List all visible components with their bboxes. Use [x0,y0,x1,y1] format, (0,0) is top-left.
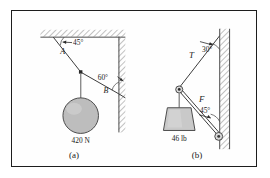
weight-label-b: 46 lb [172,134,187,143]
diagram-b: 30° 45° T F [136,11,258,166]
pin-joint-node [176,86,183,93]
panel-a: 45° 60° A B 420 N [12,11,136,166]
angle-label-45-b: 45° [200,106,210,115]
wall-support [118,37,125,133]
caption-a: (a) [12,150,136,160]
force-label-t: T [189,50,195,60]
pin-joint-wall [215,132,223,140]
point-label-a: A [59,47,65,56]
force-label-f: F [198,94,205,104]
cable-assembly-a [53,37,125,98]
weight-label-a: 420 N [72,136,91,145]
ceiling-support [40,30,125,37]
cable-t [178,36,219,89]
angle-label-45-a: 45° [73,38,83,47]
point-label-b: B [104,86,109,95]
caption-b: (b) [136,150,258,160]
diagram-a: 45° 60° A B 420 N [12,11,136,166]
angle-label-60-a: 60° [98,73,108,82]
angle-label-30-b: 30° [202,45,212,54]
sphere-highlight [66,103,82,115]
block-highlight [167,110,182,128]
figure-page: 45° 60° A B 420 N [0,0,270,178]
angle-45-marker-a [60,37,72,45]
node-dot-a [79,70,82,73]
panel-b: 30° 45° T F [136,11,258,166]
figure-frame: 45° 60° A B 420 N [11,10,257,167]
sphere-body [63,98,99,134]
wall-support-b [220,29,230,149]
